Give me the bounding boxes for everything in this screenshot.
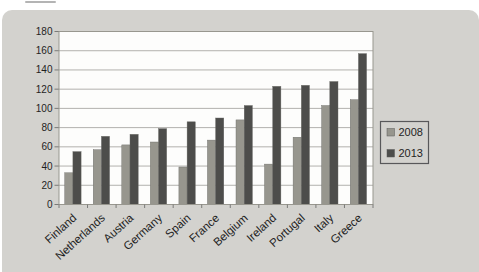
bar-2013-netherlands: [101, 136, 109, 204]
y-axis-label-120: 120: [36, 84, 53, 95]
y-axis-label-20: 20: [41, 180, 53, 191]
bar-2013-ireland: [273, 86, 281, 204]
x-axis-label-italy: Italy: [312, 211, 336, 234]
y-axis-label-40: 40: [41, 161, 53, 172]
bar-2008-finland: [65, 173, 73, 205]
bar-2008-germany: [150, 142, 158, 205]
bar-2013-france: [216, 118, 224, 205]
bar-2013-belgium: [244, 106, 252, 205]
bar-2008-belgium: [236, 120, 244, 205]
legend-label-2008: 2008: [399, 126, 423, 138]
bar-2013-germany: [159, 129, 167, 205]
bar-2008-austria: [122, 145, 130, 205]
bar-2013-greece: [358, 54, 366, 205]
bar-2008-spain: [179, 167, 187, 205]
y-axis-label-0: 0: [47, 199, 53, 210]
y-axis-label-100: 100: [36, 103, 53, 114]
bar-2013-spain: [187, 122, 195, 205]
bar-chart: 020406080100120140160180FinlandNetherlan…: [0, 0, 479, 272]
bar-2013-finland: [73, 152, 81, 205]
bar-2008-greece: [350, 100, 358, 205]
bar-2008-france: [207, 140, 215, 204]
legend-swatch-2013: [387, 150, 395, 158]
y-axis-label-180: 180: [36, 26, 53, 37]
legend-swatch-2008: [387, 129, 395, 137]
y-axis-label-80: 80: [41, 122, 53, 133]
bar-2013-portugal: [301, 85, 309, 204]
x-axis-label-greece: Greece: [328, 212, 364, 246]
bar-2008-italy: [322, 106, 330, 205]
y-axis-label-140: 140: [36, 64, 53, 75]
y-axis-label-160: 160: [36, 45, 53, 56]
y-axis-label-60: 60: [41, 141, 53, 152]
bar-2008-portugal: [293, 137, 301, 204]
bar-2013-italy: [330, 82, 338, 205]
legend-label-2013: 2013: [399, 147, 423, 159]
bar-2008-ireland: [265, 164, 273, 204]
bar-2013-austria: [130, 134, 138, 204]
bar-2008-netherlands: [93, 150, 101, 205]
